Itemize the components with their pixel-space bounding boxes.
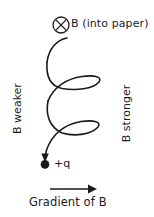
label-b-weaker: B weaker (12, 72, 23, 146)
trajectory-entry-arc (47, 38, 67, 62)
charge-marker (41, 160, 50, 169)
label-b-stronger: B stronger (121, 72, 132, 156)
trajectory-loop-1 (47, 62, 100, 101)
gradient-direction-arrow (50, 185, 97, 194)
gradient-caption: Gradient of B (29, 197, 107, 209)
physics-diagram: B (into paper) B weaker B stronger +q Gr… (0, 0, 154, 217)
trajectory-loop-2 (47, 101, 99, 150)
charge-label: +q (54, 158, 70, 169)
